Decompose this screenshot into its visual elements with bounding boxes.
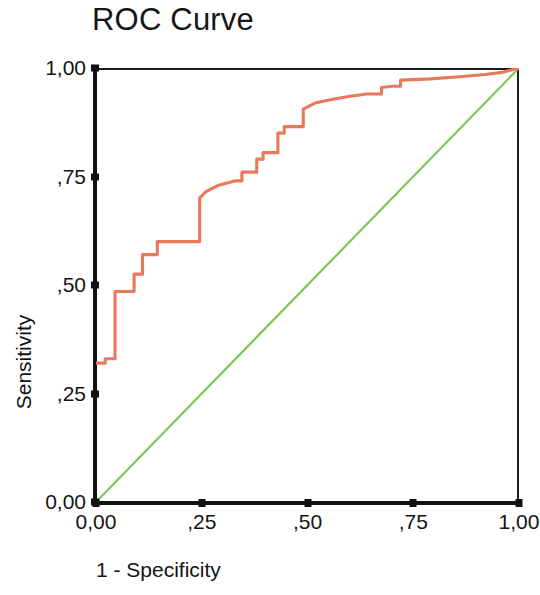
y-axis-title: Sensitivity (12, 302, 36, 422)
y-tick-label: ,50 (57, 273, 86, 297)
y-tick-mark (91, 499, 99, 506)
plot-series-svg (96, 68, 519, 502)
roc-curve-line (96, 68, 519, 363)
y-tick-mark (91, 282, 99, 289)
roc-chart: ROC Curve 0,00,25,50,751,00 0,00,25,50,7… (0, 0, 540, 595)
x-tick-label: ,50 (293, 510, 322, 534)
y-tick-label: ,75 (57, 165, 86, 189)
chart-title: ROC Curve (92, 2, 254, 38)
y-tick-mark (91, 390, 99, 397)
reference-diagonal-line (96, 68, 519, 502)
y-tick-mark (91, 65, 99, 72)
y-tick-label: ,25 (57, 382, 86, 406)
x-tick-mark (516, 499, 523, 507)
y-tick-label: 0,00 (45, 490, 86, 514)
plot-area (96, 68, 519, 502)
y-tick-label: 1,00 (45, 56, 86, 80)
x-tick-label: 1,00 (499, 510, 540, 534)
x-tick-mark (198, 499, 205, 507)
x-axis-title: 1 - Specificity (96, 558, 221, 582)
x-tick-label: ,75 (399, 510, 428, 534)
x-tick-mark (304, 499, 311, 507)
y-tick-mark (91, 173, 99, 180)
x-tick-mark (410, 499, 417, 507)
x-tick-label: ,25 (187, 510, 216, 534)
